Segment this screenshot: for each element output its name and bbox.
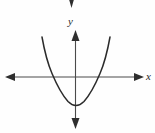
x-axis-left-arrow-icon [5, 73, 15, 81]
x-axis-right-arrow-icon [134, 73, 144, 81]
y-axis-bottom-arrow-icon [72, 118, 80, 129]
y-axis-label: y [67, 15, 73, 27]
graph-canvas: y x [0, 0, 155, 133]
y-axis-top-arrow-icon [72, 30, 80, 41]
x-axis-label: x [145, 70, 151, 82]
parabola-figure: y x [0, 0, 155, 133]
clipped-arrowhead-icon [68, 0, 76, 8]
